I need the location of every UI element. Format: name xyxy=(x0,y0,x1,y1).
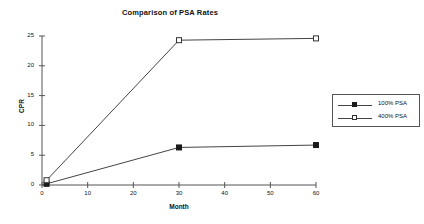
chart-legend: 100% PSA 400% PSA xyxy=(332,94,420,127)
x-tick-label: 10 xyxy=(80,190,96,196)
x-tick-label: 60 xyxy=(308,190,324,196)
data-point-marker xyxy=(177,38,182,43)
y-tick-label: 15 xyxy=(18,92,34,98)
y-tick-label: 25 xyxy=(18,32,34,38)
legend-item-400-psa[interactable]: 400% PSA xyxy=(333,112,421,124)
legend-item-100-psa[interactable]: 100% PSA xyxy=(333,99,421,111)
y-tick-label: 10 xyxy=(18,121,34,127)
series-line-400-psa xyxy=(47,38,316,180)
data-series-group xyxy=(44,36,318,186)
legend-label: 400% PSA xyxy=(378,113,407,119)
x-tick-label: 40 xyxy=(217,190,233,196)
axes xyxy=(42,36,316,185)
series-line-100-psa xyxy=(47,145,316,184)
y-tick-label: 20 xyxy=(18,62,34,68)
y-tick-label: 0 xyxy=(18,181,34,187)
x-tick-label: 50 xyxy=(262,190,278,196)
x-tick-label: 20 xyxy=(125,190,141,196)
y-tick-label: 5 xyxy=(18,151,34,157)
x-tick-label: 0 xyxy=(34,190,50,196)
hollow-square-marker-icon xyxy=(352,115,357,120)
data-point-marker xyxy=(314,36,319,41)
data-point-marker xyxy=(177,145,182,150)
x-tick-label: 30 xyxy=(171,190,187,196)
legend-label: 100% PSA xyxy=(378,100,407,106)
psa-rates-chart: Comparison of PSA Rates CPR Month 051015… xyxy=(0,0,424,224)
filled-square-marker-icon xyxy=(352,102,357,107)
data-point-marker xyxy=(314,143,319,148)
data-point-marker xyxy=(44,178,49,183)
